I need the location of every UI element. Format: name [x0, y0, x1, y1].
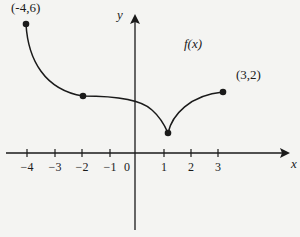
- point-minus4-6: [23, 21, 30, 28]
- y-axis-label: y: [117, 8, 123, 21]
- x-axis-label: x: [291, 157, 297, 170]
- tick-label-minus3: −3: [49, 161, 62, 173]
- chart-canvas: [0, 0, 300, 237]
- tick-label-3: 3: [215, 161, 221, 173]
- tick-label-2: 2: [188, 161, 194, 173]
- point-label-3-2: (3,2): [236, 68, 261, 81]
- tick-label-zero: 0: [124, 161, 130, 173]
- point-minimum: [165, 130, 172, 137]
- tick-label-minus1: −1: [104, 161, 117, 173]
- function-label: f(x): [184, 37, 202, 50]
- tick-label-minus2: −2: [76, 161, 89, 173]
- point-minus2: [80, 93, 87, 100]
- tick-label-minus4: −4: [21, 161, 34, 173]
- tick-label-1: 1: [161, 161, 167, 173]
- point-3-2: [220, 89, 227, 96]
- point-label-minus4-6: (-4,6): [11, 1, 40, 14]
